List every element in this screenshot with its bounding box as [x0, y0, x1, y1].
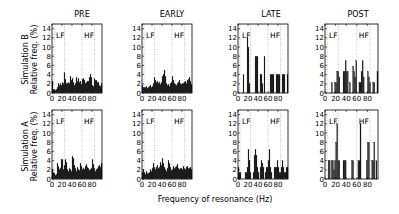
svg-text:8: 8: [320, 139, 324, 147]
svg-text:6: 6: [137, 148, 142, 156]
figure: PRE EARLY LATE POST Simulation B Relativ…: [0, 0, 399, 214]
svg-text:60: 60: [264, 181, 273, 189]
svg-text:4: 4: [47, 157, 52, 165]
svg-text:4: 4: [47, 71, 52, 79]
svg-text:14: 14: [228, 111, 237, 119]
svg-text:60: 60: [78, 95, 87, 103]
svg-text:8: 8: [47, 53, 51, 61]
svg-text:12: 12: [228, 34, 237, 42]
svg-text:40: 40: [158, 95, 167, 103]
svg-text:14: 14: [42, 25, 51, 33]
svg-text:8: 8: [320, 53, 324, 61]
svg-text:40: 40: [68, 181, 77, 189]
svg-text:8: 8: [233, 139, 237, 147]
svg-text:HF: HF: [84, 31, 94, 40]
svg-text:40: 40: [254, 181, 263, 189]
svg-text:2: 2: [233, 80, 237, 88]
svg-text:4: 4: [320, 71, 325, 79]
svg-text:20: 20: [58, 95, 67, 103]
svg-text:20: 20: [244, 95, 253, 103]
svg-text:80: 80: [274, 181, 283, 189]
svg-text:2: 2: [320, 166, 324, 174]
svg-text:HF: HF: [174, 31, 184, 40]
svg-text:12: 12: [228, 120, 237, 128]
svg-text:10: 10: [228, 44, 237, 52]
svg-text:0: 0: [236, 181, 240, 189]
histogram-panel-b-late: 02468101214020406080LFHF: [228, 24, 288, 103]
svg-text:60: 60: [168, 181, 177, 189]
svg-text:40: 40: [342, 95, 351, 103]
svg-text:60: 60: [168, 95, 177, 103]
svg-text:80: 80: [363, 95, 372, 103]
svg-text:14: 14: [228, 25, 237, 33]
svg-text:80: 80: [274, 95, 283, 103]
histogram-grid: 02468101214020406080LFHF0246810121402040…: [0, 0, 399, 214]
svg-text:80: 80: [88, 95, 97, 103]
svg-text:20: 20: [331, 95, 340, 103]
svg-text:0: 0: [323, 95, 327, 103]
svg-text:0: 0: [236, 95, 240, 103]
svg-text:80: 80: [178, 181, 187, 189]
svg-text:20: 20: [58, 181, 67, 189]
svg-text:LF: LF: [56, 31, 65, 40]
histogram-panel-b-post: 02468101214020406080LFHF: [315, 24, 378, 103]
svg-text:12: 12: [42, 34, 51, 42]
svg-text:60: 60: [352, 181, 361, 189]
svg-text:0: 0: [140, 181, 144, 189]
svg-text:20: 20: [148, 181, 157, 189]
svg-text:4: 4: [233, 157, 238, 165]
svg-text:12: 12: [315, 34, 324, 42]
svg-text:14: 14: [132, 111, 141, 119]
svg-text:14: 14: [315, 25, 324, 33]
histogram-panel-a-early: 02468101214020406080LFHF: [132, 110, 192, 189]
svg-text:8: 8: [47, 139, 51, 147]
svg-text:80: 80: [363, 181, 372, 189]
svg-text:0: 0: [50, 181, 54, 189]
histogram-panel-a-post: 02468101214020406080LFHF: [315, 110, 378, 189]
svg-text:2: 2: [233, 166, 237, 174]
svg-text:4: 4: [233, 71, 238, 79]
svg-text:HF: HF: [174, 117, 184, 126]
svg-text:2: 2: [47, 166, 51, 174]
svg-text:0: 0: [323, 181, 327, 189]
svg-text:10: 10: [132, 44, 141, 52]
svg-text:10: 10: [132, 130, 141, 138]
svg-text:6: 6: [233, 148, 238, 156]
svg-text:HF: HF: [359, 31, 369, 40]
svg-text:80: 80: [178, 95, 187, 103]
svg-text:6: 6: [320, 62, 325, 70]
svg-text:8: 8: [137, 53, 141, 61]
svg-text:10: 10: [315, 130, 324, 138]
svg-text:40: 40: [158, 181, 167, 189]
svg-text:12: 12: [132, 34, 141, 42]
svg-text:0: 0: [50, 95, 54, 103]
svg-text:2: 2: [137, 80, 141, 88]
svg-text:14: 14: [315, 111, 324, 119]
histogram-panel-a-pre: 02468101214020406080LFHF: [42, 110, 102, 189]
svg-text:12: 12: [315, 120, 324, 128]
histogram-panel-a-late: 02468101214020406080LFHF: [228, 110, 288, 189]
svg-text:LF: LF: [242, 117, 251, 126]
svg-text:40: 40: [254, 95, 263, 103]
svg-text:20: 20: [331, 181, 340, 189]
svg-text:60: 60: [352, 95, 361, 103]
svg-text:40: 40: [68, 95, 77, 103]
svg-text:10: 10: [228, 130, 237, 138]
svg-text:10: 10: [42, 44, 51, 52]
svg-text:12: 12: [132, 120, 141, 128]
svg-text:6: 6: [137, 62, 142, 70]
svg-text:4: 4: [137, 157, 142, 165]
svg-text:2: 2: [47, 80, 51, 88]
svg-text:8: 8: [137, 139, 141, 147]
svg-text:14: 14: [42, 111, 51, 119]
svg-text:LF: LF: [56, 117, 65, 126]
svg-text:14: 14: [132, 25, 141, 33]
svg-text:12: 12: [42, 120, 51, 128]
histogram-panel-b-early: 02468101214020406080LFHF: [132, 24, 192, 103]
svg-text:LF: LF: [242, 31, 251, 40]
svg-text:6: 6: [47, 148, 52, 156]
svg-text:10: 10: [315, 44, 324, 52]
svg-text:10: 10: [42, 130, 51, 138]
svg-text:40: 40: [342, 181, 351, 189]
svg-text:LF: LF: [329, 117, 338, 126]
